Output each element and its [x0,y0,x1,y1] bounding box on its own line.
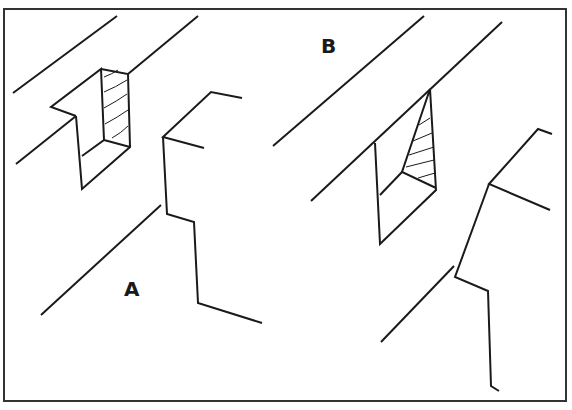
label-b: B [321,34,336,58]
part-b [273,16,552,391]
label-a: A [124,277,139,301]
diagram-canvas [0,0,572,410]
hatch-a [104,70,128,138]
